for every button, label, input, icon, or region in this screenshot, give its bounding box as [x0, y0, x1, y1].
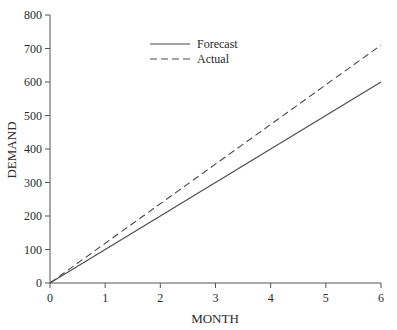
y-tick-label: 100	[24, 243, 42, 257]
legend-label-forecast: Forecast	[197, 37, 238, 51]
y-tick-label: 700	[24, 42, 42, 56]
series-line-actual	[50, 45, 381, 283]
x-tick-label: 5	[323, 291, 329, 305]
x-tick-label: 6	[378, 291, 384, 305]
x-tick-label: 1	[102, 291, 108, 305]
x-tick-label: 0	[47, 291, 53, 305]
y-axis-label: DEMAND	[4, 121, 19, 178]
y-tick-label: 800	[24, 8, 42, 22]
y-tick-label: 600	[24, 75, 42, 89]
y-tick-label: 400	[24, 142, 42, 156]
x-axis-label: MONTH	[191, 311, 239, 326]
y-tick-label: 300	[24, 176, 42, 190]
series-line-forecast	[50, 82, 381, 283]
chart: 01002003004005006007008000123456 Forecas…	[0, 0, 397, 330]
x-tick-label: 3	[213, 291, 219, 305]
x-tick-label: 2	[157, 291, 163, 305]
legend-label-actual: Actual	[197, 52, 230, 66]
series-lines	[50, 45, 381, 283]
y-tick-label: 200	[24, 209, 42, 223]
legend: ForecastActual	[150, 37, 238, 66]
y-tick-label: 0	[36, 276, 42, 290]
y-tick-label: 500	[24, 109, 42, 123]
x-tick-label: 4	[268, 291, 274, 305]
